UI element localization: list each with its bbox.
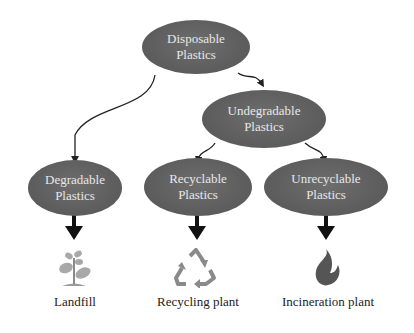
node-label-line1: Undegradable xyxy=(228,103,301,119)
node-label-line1: Disposable xyxy=(167,31,225,47)
node-label-line1: Recyclable xyxy=(169,171,227,187)
node-disposable-plastics: Disposable Plastics xyxy=(142,20,250,74)
flame-icon xyxy=(308,247,344,287)
outcome-label-recycling-plant: Recycling plant xyxy=(150,294,246,310)
node-label-line1: Degradable xyxy=(45,172,105,188)
node-label-line2: Plastics xyxy=(306,187,346,203)
node-label-line2: Plastics xyxy=(55,188,95,204)
edge-disposable-degradable xyxy=(75,75,155,160)
arrow-degradable-landfill xyxy=(65,212,83,240)
node-label-line2: Plastics xyxy=(244,119,284,135)
outcome-label-incineration-plant: Incineration plant xyxy=(276,294,380,310)
arrow-recyclable-recycling xyxy=(188,212,206,240)
arrow-unrecyclable-incineration xyxy=(317,212,335,240)
outcome-label-landfill: Landfill xyxy=(40,294,110,310)
node-recyclable-plastics: Recyclable Plastics xyxy=(144,158,252,216)
node-degradable-plastics: Degradable Plastics xyxy=(28,160,122,216)
node-label-line2: Plastics xyxy=(176,47,216,63)
node-unrecyclable-plastics: Unrecyclable Plastics xyxy=(264,158,388,216)
plastics-flow-diagram: Disposable Plastics Undegradable Plastic… xyxy=(0,0,414,333)
plant-sprout-icon xyxy=(54,248,94,288)
edge-disposable-undegradable xyxy=(238,73,262,84)
node-label-line1: Unrecyclable xyxy=(291,171,360,187)
node-label-line2: Plastics xyxy=(178,187,218,203)
recycle-icon xyxy=(172,248,220,288)
node-undegradable-plastics: Undegradable Plastics xyxy=(202,90,326,148)
